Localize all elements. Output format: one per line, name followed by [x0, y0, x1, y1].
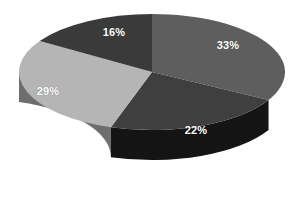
- pie-chart-canvas: [0, 0, 307, 199]
- pie-chart-figure: 33% 22% 29% 16%: [0, 0, 307, 199]
- pie-top-face: [19, 14, 285, 130]
